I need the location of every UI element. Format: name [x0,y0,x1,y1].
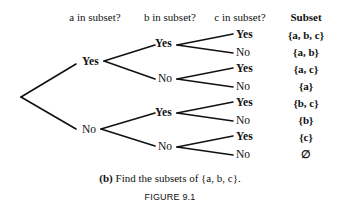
node-a-no: No [82,123,96,135]
edge-b4-c-yes [177,136,233,147]
node-b-yes-1: Yes [155,37,172,49]
edge-a-yes-b-no [104,61,155,79]
header-c-in-subset: c in subset? [214,11,265,23]
node-c-yes-4: Yes [236,130,253,142]
node-a-yes: Yes [82,55,99,67]
caption-prefix: (b) [99,172,112,184]
subset-abc: {a, b, c} [288,29,324,41]
header-a-in-subset: a in subset? [69,11,120,23]
caption-text: Find the subsets of {a, b, c}. [113,172,241,184]
edge-b2-c-no [177,79,233,87]
node-c-yes-2: Yes [236,62,253,74]
node-c-no-4: No [236,148,250,160]
node-b-no-2: No [158,140,172,152]
node-b-no-1: No [158,72,172,84]
node-c-no-3: No [236,114,250,126]
node-c-yes-1: Yes [236,28,253,40]
node-c-no-2: No [236,80,250,92]
subset-bc: {b, c} [293,97,318,109]
edge-b1-c-yes [177,34,233,45]
subset-ab: {a, b} [293,46,319,58]
edge-b3-c-no [177,113,233,121]
node-c-no-1: No [236,46,250,58]
edge-root-a-yes [21,64,76,97]
node-c-yes-3: Yes [236,96,253,108]
node-b-yes-2: Yes [155,106,172,118]
edge-b1-c-no [177,45,233,53]
header-subset: Subset [290,11,321,23]
edge-b2-c-yes [177,68,233,79]
subset-c: {c} [299,131,313,143]
edge-a-yes-b-yes [104,45,155,61]
header-b-in-subset: b in subset? [144,11,196,23]
subset-ac: {a, c} [294,63,319,75]
subset-empty: ∅ [301,148,311,161]
subset-b: {b} [299,114,314,126]
edge-a-no-b-yes [101,113,155,129]
edge-b3-c-yes [177,102,233,113]
figure-label: FIGURE 9.1 [144,192,195,202]
subset-a: {a} [299,80,313,92]
figure-caption: (b) Find the subsets of {a, b, c}. [99,172,240,184]
edge-b4-c-no [177,147,233,155]
edge-root-a-no [21,97,76,129]
edge-a-no-b-no [101,129,155,146]
